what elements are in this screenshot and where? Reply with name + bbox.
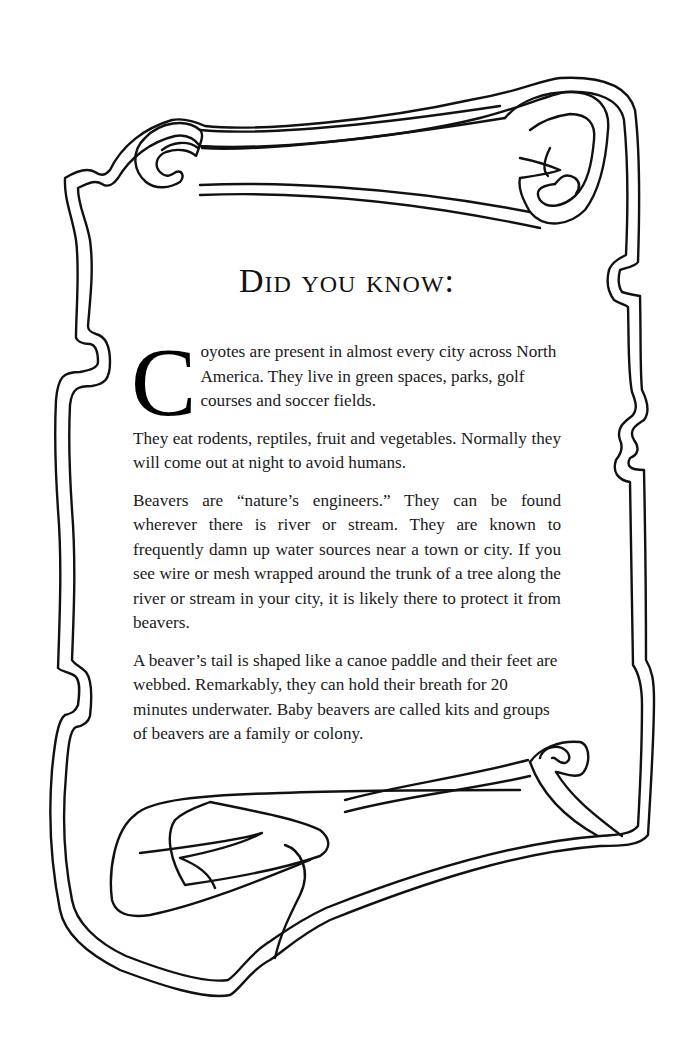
paragraph-coyotes-habitat: Coyotes are present in almost every city… xyxy=(133,340,561,414)
fact-content: Did you know: Coyotes are present in alm… xyxy=(133,262,561,760)
paragraph-coyotes-diet: They eat rodents, reptiles, fruit and ve… xyxy=(133,427,561,476)
paragraph-beavers-facts: A beaver’s tail is shaped like a canoe p… xyxy=(133,649,561,747)
paragraph-text: oyotes are present in almost every city … xyxy=(200,342,556,410)
paragraph-beavers-engineers: Beavers are “nature’s engineers.” They c… xyxy=(133,489,561,636)
drop-cap: C xyxy=(131,342,196,420)
page-title: Did you know: xyxy=(133,262,561,300)
page: Did you know: Coyotes are present in alm… xyxy=(0,0,691,1058)
